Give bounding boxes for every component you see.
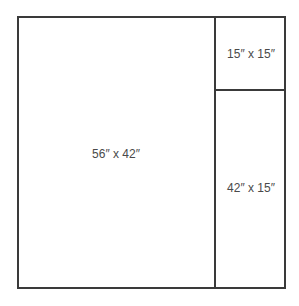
- horizontal-divider: [215, 89, 285, 91]
- vertical-divider: [214, 16, 216, 289]
- large-panel-label: 56″ x 42″: [92, 147, 140, 161]
- small-square-label: 15″ x 15″: [227, 47, 275, 61]
- tall-strip-label: 42″ x 15″: [227, 181, 275, 195]
